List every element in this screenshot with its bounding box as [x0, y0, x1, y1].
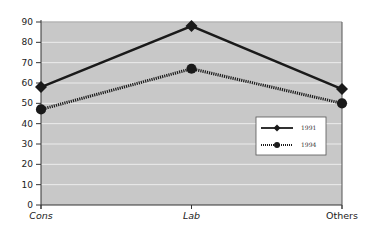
y-tick-label: 0 [27, 200, 33, 210]
legend-box [256, 117, 326, 155]
x-tick-label: Lab [183, 210, 200, 221]
data-point [337, 98, 347, 108]
y-tick-label: 20 [22, 159, 34, 169]
y-tick-label: 70 [22, 58, 34, 68]
data-point [186, 64, 196, 74]
plot-area [41, 22, 342, 205]
y-tick-label: 90 [22, 17, 34, 27]
y-tick-label: 60 [22, 78, 34, 88]
y-tick-label: 10 [22, 180, 34, 190]
data-point [36, 104, 46, 114]
legend-marker [274, 142, 280, 148]
y-tick-label: 50 [22, 98, 34, 108]
x-axis-ticks: ConsLabOthers [29, 205, 358, 221]
legend-label: 1994 [301, 141, 316, 148]
y-tick-label: 80 [22, 37, 34, 47]
legend-label: 1991 [301, 124, 316, 131]
y-tick-label: 30 [22, 139, 34, 149]
line-chart: 0102030405060708090 ConsLabOthers 199119… [0, 0, 373, 233]
y-tick-label: 40 [22, 119, 34, 129]
x-tick-label: Others [326, 210, 358, 221]
legend: 19911994 [256, 117, 326, 155]
x-tick-label: Cons [29, 210, 52, 221]
